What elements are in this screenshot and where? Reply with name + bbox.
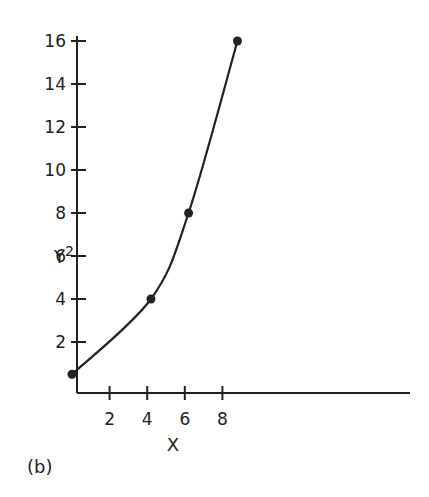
y-axis-ticks: 246810121416 — [44, 31, 86, 352]
x-axis-label: X — [167, 434, 179, 455]
y-tick-label: 16 — [44, 31, 66, 51]
data-point-marker — [233, 37, 242, 46]
x-tick-label: 6 — [179, 409, 190, 429]
panel-label: (b) — [27, 456, 52, 477]
data-curve — [72, 41, 237, 374]
y-tick-label: 14 — [44, 74, 66, 94]
x-tick-label: 8 — [217, 409, 228, 429]
x-tick-label: 2 — [104, 409, 115, 429]
y-tick-label: 4 — [55, 289, 66, 309]
x-tick-label: 4 — [142, 409, 153, 429]
y-tick-label: 10 — [44, 160, 66, 180]
y-axis-label: Y2 — [53, 243, 74, 267]
chart-svg: 246810121416 2468 Y2 X (b) — [0, 0, 429, 497]
data-point-marker — [146, 295, 155, 304]
data-points — [68, 37, 242, 379]
y-tick-label: 12 — [44, 117, 66, 137]
data-point-marker — [68, 370, 77, 379]
data-point-marker — [184, 209, 193, 218]
y-tick-label: 2 — [55, 332, 66, 352]
y-tick-label: 8 — [55, 203, 66, 223]
